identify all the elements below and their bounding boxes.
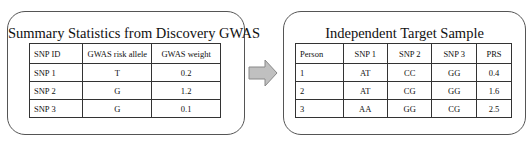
header-cell: PRS: [476, 44, 511, 64]
cell: 0.2: [152, 64, 221, 82]
cell: 1.2: [152, 82, 221, 100]
cell: SNP 1: [30, 64, 83, 82]
table-row: SNP 1 T 0.2: [30, 64, 221, 82]
cell: GG: [432, 64, 476, 82]
table-row: 2 AT CG GG 1.6: [296, 82, 512, 100]
cell: CG: [432, 100, 476, 118]
target-sample-panel: Independent Target Sample Person SNP 1 S…: [283, 11, 526, 135]
table-row: SNP 3 G 0.1: [30, 100, 221, 118]
cell: GG: [388, 100, 432, 118]
cell: SNP 2: [30, 82, 83, 100]
panel-title: Independent Target Sample: [284, 25, 525, 42]
cell: AA: [343, 100, 387, 118]
table-header-row: Person SNP 1 SNP 2 SNP 3 PRS: [296, 44, 512, 64]
header-cell: SNP 1: [343, 44, 387, 64]
cell: 2.5: [476, 100, 511, 118]
cell: CC: [388, 64, 432, 82]
header-cell: GWAS weight: [152, 44, 221, 64]
table-row: SNP 2 G 1.2: [30, 82, 221, 100]
cell: 3: [296, 100, 344, 118]
header-cell: Person: [296, 44, 344, 64]
discovery-gwas-panel: Summary Statistics from Discovery GWAS S…: [7, 11, 245, 135]
right-arrow-icon: [248, 59, 278, 87]
cell: G: [83, 82, 152, 100]
panel-title: Summary Statistics from Discovery GWAS: [8, 25, 244, 42]
cell: 1: [296, 64, 344, 82]
cell: CG: [388, 82, 432, 100]
header-cell: SNP ID: [30, 44, 83, 64]
cell: SNP 3: [30, 100, 83, 118]
cell: 0.1: [152, 100, 221, 118]
table-header-row: SNP ID GWAS risk allele GWAS weight: [30, 44, 221, 64]
cell: GG: [432, 82, 476, 100]
header-cell: GWAS risk allele: [83, 44, 152, 64]
cell: AT: [343, 64, 387, 82]
cell: 2: [296, 82, 344, 100]
table-row: 1 AT CC GG 0.4: [296, 64, 512, 82]
table-row: 3 AA GG CG 2.5: [296, 100, 512, 118]
cell: T: [83, 64, 152, 82]
cell: AT: [343, 82, 387, 100]
cell: 0.4: [476, 64, 511, 82]
cell: G: [83, 100, 152, 118]
gwas-summary-table: SNP ID GWAS risk allele GWAS weight SNP …: [29, 43, 221, 118]
cell: 1.6: [476, 82, 511, 100]
target-sample-table: Person SNP 1 SNP 2 SNP 3 PRS 1 AT CC GG …: [295, 43, 512, 118]
header-cell: SNP 2: [388, 44, 432, 64]
header-cell: SNP 3: [432, 44, 476, 64]
